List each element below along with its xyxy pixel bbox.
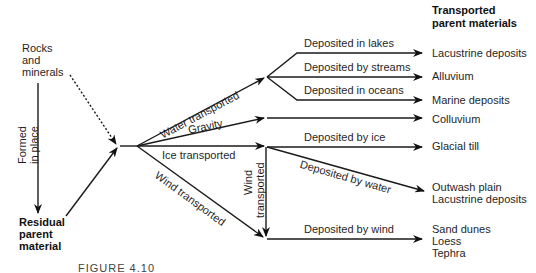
material-colluvium: Colluvium — [432, 113, 480, 126]
formed-label-line2: in place — [28, 126, 41, 164]
wind-vertical-label-line2: transported — [254, 162, 267, 218]
rocks-to-junction-dotted-arrow — [70, 75, 116, 144]
figure-caption: FIGURE 4.10 — [78, 262, 155, 273]
material-wind-line3: Tephra — [432, 247, 466, 260]
deposit-oceans-label: Deposited in oceans — [304, 84, 404, 97]
deposit-streams-label: Deposited by streams — [304, 61, 410, 74]
residual-line3: material — [19, 240, 61, 253]
material-outwash-line2: Lacustrine deposits — [432, 193, 527, 206]
material-alluvium: Alluvium — [432, 70, 474, 83]
ice-transport-label: Ice transported — [162, 149, 235, 162]
parent-material-diagram: Transported parent materials Rocks and m… — [0, 0, 536, 273]
material-marine: Marine deposits — [432, 94, 510, 107]
header-title-line1: Transported — [432, 4, 496, 17]
deposit-ice-label: Deposited by ice — [304, 131, 385, 144]
water-deposit-arrow — [267, 147, 424, 191]
header-title-line2: parent materials — [432, 17, 517, 30]
material-lacustrine: Lacustrine deposits — [432, 47, 527, 60]
material-glacial-till: Glacial till — [432, 140, 479, 153]
residual-to-junction-arrow — [66, 148, 117, 216]
deposit-wind-label: Deposited by wind — [304, 223, 394, 236]
source-line3: minerals — [22, 66, 64, 79]
deposit-lakes-label: Deposited in lakes — [304, 37, 394, 50]
